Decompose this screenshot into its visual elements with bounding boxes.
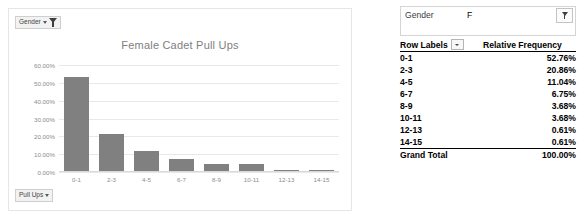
row-labels-filter-button[interactable] — [451, 39, 464, 50]
chart-x-tick-label: 6-7 — [164, 176, 199, 183]
pivot-table-body: 0-152.76%2-320.86%4-511.04%6-76.75%8-93.… — [400, 52, 576, 162]
chart-y-tick-label: 40.00% — [34, 97, 55, 104]
table-cell-row-label: 8-9 — [400, 100, 483, 112]
chart-field-button-gender[interactable]: Gender — [15, 16, 61, 29]
chart-y-tick-label: 30.00% — [34, 115, 55, 122]
chart-bars: 0-12-34-56-78-910-1112-1314-15 — [59, 64, 339, 171]
column-header-row-labels[interactable]: Row Labels — [400, 38, 483, 52]
pivot-chart-panel: Gender Female Cadet Pull Ups 0.00%10.00%… — [8, 8, 352, 211]
pivot-table-panel: Gender F Row Labels Relative Frequency 0 — [400, 6, 576, 161]
table-row[interactable]: 10-113.68% — [400, 112, 576, 124]
table-row-grand-total: Grand Total100.00% — [400, 149, 576, 162]
table-cell-relative-frequency: 3.68% — [483, 112, 577, 124]
filter-funnel-icon — [49, 18, 57, 27]
table-cell-row-label: 12-13 — [400, 124, 483, 136]
pivot-spacer-row — [400, 23, 576, 36]
chart-bar-slot: 10-11 — [234, 64, 269, 171]
table-row[interactable]: 8-93.68% — [400, 100, 576, 112]
chart-x-axis-line — [59, 171, 339, 172]
pivot-filter-value: F — [467, 10, 556, 20]
chart-bar-slot: 6-7 — [164, 64, 199, 171]
chart-bar[interactable] — [134, 151, 160, 171]
table-row[interactable]: 6-76.75% — [400, 88, 576, 100]
chart-y-tick-label: 20.00% — [34, 133, 55, 140]
table-cell-relative-frequency: 0.61% — [483, 124, 577, 136]
table-cell-row-label: 10-11 — [400, 112, 483, 124]
chart-bar-slot: 4-5 — [129, 64, 164, 171]
chart-y-tick-label: 0.00% — [37, 169, 55, 176]
chart-bar-slot: 12-13 — [269, 64, 304, 171]
table-cell-relative-frequency: 0.61% — [483, 136, 577, 149]
pivot-filter-row: Gender F — [400, 6, 576, 23]
table-cell-relative-frequency: 11.04% — [483, 76, 577, 88]
chart-field-button-gender-label: Gender — [19, 19, 41, 26]
grand-total-value: 100.00% — [483, 149, 577, 162]
chevron-down-icon — [45, 194, 49, 197]
table-row[interactable]: 2-320.86% — [400, 64, 576, 76]
chart-bar-slot: 8-9 — [199, 64, 234, 171]
chart-x-tick-label: 2-3 — [94, 176, 129, 183]
chart-bar-slot: 2-3 — [94, 64, 129, 171]
column-header-row-labels-text: Row Labels — [400, 40, 448, 50]
table-cell-relative-frequency: 3.68% — [483, 100, 577, 112]
table-cell-row-label: 6-7 — [400, 88, 483, 100]
table-cell-row-label: 2-3 — [400, 64, 483, 76]
table-row[interactable]: 12-130.61% — [400, 124, 576, 136]
chart-bar-slot: 0-1 — [59, 64, 94, 171]
table-cell-relative-frequency: 52.76% — [483, 52, 577, 65]
chart-bar[interactable] — [274, 170, 300, 171]
table-row[interactable]: 14-150.61% — [400, 136, 576, 149]
chevron-down-icon — [43, 21, 47, 24]
chart-x-tick-label: 14-15 — [304, 176, 339, 183]
table-row[interactable]: 0-152.76% — [400, 52, 576, 65]
chart-bar[interactable] — [204, 164, 230, 171]
chart-bar[interactable] — [64, 77, 90, 171]
table-cell-row-label: 4-5 — [400, 76, 483, 88]
table-row[interactable]: 4-511.04% — [400, 76, 576, 88]
chart-y-tick-label: 60.00% — [34, 62, 55, 69]
column-header-relative-frequency[interactable]: Relative Frequency — [483, 38, 577, 52]
chart-y-tick-label: 10.00% — [34, 151, 55, 158]
chart-x-tick-label: 12-13 — [269, 176, 304, 183]
chart-plot-area: 0.00%10.00%20.00%30.00%40.00%50.00%60.00… — [59, 65, 339, 172]
chart-bar[interactable] — [309, 170, 335, 171]
chart-bar[interactable] — [169, 159, 195, 171]
table-header-row: Row Labels Relative Frequency — [400, 38, 576, 52]
pivot-filter-dropdown-button[interactable] — [556, 8, 573, 23]
chart-bar-slot: 14-15 — [304, 64, 339, 171]
chart-bar[interactable] — [239, 164, 265, 171]
table-cell-row-label: 0-1 — [400, 52, 483, 65]
table-cell-relative-frequency: 6.75% — [483, 88, 577, 100]
pivot-filter-field-label: Gender — [401, 10, 467, 20]
chart-gridline — [59, 172, 339, 173]
pivot-table: Row Labels Relative Frequency 0-152.76%2… — [400, 38, 576, 161]
filter-funnel-icon — [562, 12, 568, 19]
chart-x-tick-label: 10-11 — [234, 176, 269, 183]
table-cell-row-label: 14-15 — [400, 136, 483, 149]
chart-x-tick-label: 0-1 — [59, 176, 94, 183]
chart-field-button-pullups[interactable]: Pull Ups — [15, 189, 53, 202]
chart-x-tick-label: 4-5 — [129, 176, 164, 183]
chart-bar[interactable] — [99, 134, 125, 171]
table-cell-relative-frequency: 20.86% — [483, 64, 577, 76]
chart-title: Female Cadet Pull Ups — [9, 39, 351, 51]
chart-field-button-pullups-label: Pull Ups — [19, 192, 43, 199]
chevron-down-icon — [455, 44, 459, 46]
chart-x-tick-label: 8-9 — [199, 176, 234, 183]
grand-total-label: Grand Total — [400, 149, 483, 162]
chart-y-tick-label: 50.00% — [34, 79, 55, 86]
